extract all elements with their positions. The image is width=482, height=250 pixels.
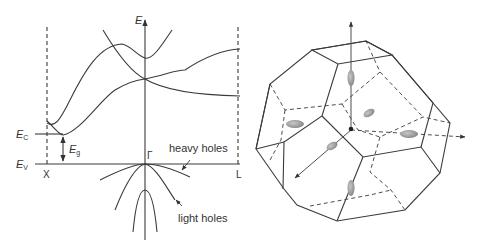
- gamma-center-dot: [349, 127, 354, 132]
- valley-ellipsoid-top: [348, 70, 355, 86]
- valley-ellipsoid-back: [362, 107, 376, 119]
- heavy-holes-pointer: [182, 160, 190, 170]
- valley-ellipsoid-left: [286, 120, 304, 128]
- gamma-point-label: Γ: [147, 150, 153, 161]
- heavy-holes-label: heavy holes: [169, 142, 228, 154]
- front-hexagon-bottom-edge: [322, 116, 440, 173]
- figure-canvas: E EC EV Eg X Γ L heavy holes light holes: [0, 0, 482, 250]
- x-point-label: X: [43, 169, 50, 180]
- left-square-top-edge: [256, 142, 284, 149]
- brillouin-zone-diagram: [256, 22, 465, 221]
- ev-label: EV: [16, 158, 28, 171]
- crossing-conduction-band: [103, 30, 240, 96]
- band-labels: E EC EV Eg X Γ L heavy holes light holes: [16, 14, 242, 224]
- valley-ellipsoid-bottom: [348, 180, 355, 196]
- ky-axis: [295, 130, 351, 178]
- band-structure-diagram: [35, 20, 240, 240]
- left-outer-edge: [256, 84, 270, 149]
- valley-ellipsoids: [286, 70, 418, 196]
- energy-axis-label: E: [135, 14, 143, 26]
- valley-ellipsoid-right: [400, 130, 418, 138]
- top-square-face: [312, 41, 392, 64]
- eg-label: Eg: [69, 143, 80, 157]
- l-point-label: L: [236, 169, 242, 180]
- ec-label: EC: [16, 128, 28, 141]
- light-holes-label: light holes: [178, 212, 228, 224]
- lower-conduction-band: [47, 49, 240, 135]
- light-holes-pointer: [176, 200, 182, 206]
